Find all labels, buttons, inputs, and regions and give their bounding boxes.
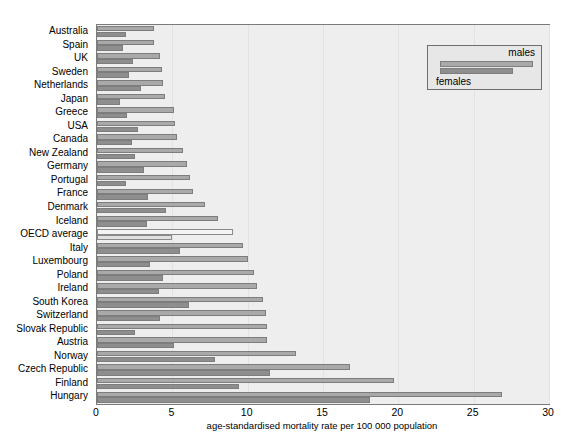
y-axis-label: USA: [67, 119, 88, 133]
bar-females: [97, 72, 129, 77]
y-axis-label: Netherlands: [34, 78, 88, 92]
bar-females: [97, 86, 141, 91]
bar-males: [97, 67, 162, 72]
y-axis-labels: AustraliaSpainUKSwedenNetherlandsJapanGr…: [0, 24, 92, 403]
y-axis-label: Iceland: [56, 214, 88, 228]
bar-males: [97, 134, 177, 139]
bar-males: [97, 283, 257, 288]
bar-row: [97, 133, 549, 147]
bar-females: [97, 167, 144, 172]
bar-row: [97, 282, 549, 296]
bar-males: [97, 364, 350, 369]
bar-females: [97, 208, 166, 213]
bar-row: [97, 160, 549, 174]
bar-row: [97, 120, 549, 134]
bar-males: [97, 310, 266, 315]
y-axis-label: Poland: [57, 268, 88, 282]
bar-females: [97, 154, 135, 159]
bar-males: [97, 202, 205, 207]
x-axis-tick-label: 25: [467, 405, 479, 419]
bar-females: [97, 357, 215, 362]
y-axis-label: OECD average: [20, 227, 88, 241]
bar-females: [97, 235, 172, 240]
bar-males: [97, 392, 502, 397]
bar-males: [97, 243, 243, 248]
bar-row: [97, 174, 549, 188]
y-axis-label: Finland: [55, 376, 88, 390]
bar-males: [97, 256, 248, 261]
x-axis-tick-label: 30: [542, 405, 554, 419]
bar-males: [97, 94, 165, 99]
bar-row: [97, 309, 549, 323]
bar-row: [97, 242, 549, 256]
bar-females: [97, 275, 163, 280]
bar-males: [97, 148, 183, 153]
bar-females: [97, 302, 189, 307]
bar-females: [97, 59, 133, 64]
y-axis-label: Germany: [47, 159, 88, 173]
bar-males: [97, 351, 296, 356]
y-axis-label: Italy: [70, 241, 88, 255]
y-axis-label: South Korea: [32, 295, 88, 309]
bar-females: [97, 289, 159, 294]
bar-males: [97, 337, 267, 342]
bar-males: [97, 229, 233, 234]
bar-row: [97, 201, 549, 215]
bar-row: [97, 377, 549, 391]
bar-males: [97, 121, 175, 126]
y-axis-label: Slovak Republic: [16, 322, 88, 336]
x-axis-tick-label: 15: [316, 405, 328, 419]
bar-females: [97, 330, 135, 335]
y-axis-label: New Zealand: [29, 146, 88, 160]
bar-row: [97, 363, 549, 377]
bar-males: [97, 53, 160, 58]
x-axis-tick-label: 20: [391, 405, 403, 419]
bar-row: [97, 147, 549, 161]
y-axis-label: Czech Republic: [18, 362, 88, 376]
bar-females: [97, 140, 132, 145]
x-axis-title: age-standardised mortality rate per 100 …: [96, 420, 548, 431]
y-axis-label: Canada: [53, 132, 88, 146]
bar-females: [97, 384, 239, 389]
x-axis-tick-label: 5: [168, 405, 174, 419]
bar-females: [97, 397, 370, 402]
bar-females: [97, 316, 160, 321]
y-axis-label: Switzerland: [36, 308, 88, 322]
y-axis-label: Austria: [57, 335, 88, 349]
bar-males: [97, 297, 263, 302]
bar-row: [97, 187, 549, 201]
x-axis-tick-label: 0: [93, 405, 99, 419]
y-axis-label: Spain: [62, 38, 88, 52]
bar-females: [97, 32, 126, 37]
bar-females: [97, 99, 120, 104]
bar-females: [97, 181, 126, 186]
y-axis-label: Ireland: [57, 281, 88, 295]
chart-legend: males females: [427, 45, 542, 90]
bar-males: [97, 175, 190, 180]
y-axis-label: Norway: [54, 349, 88, 363]
bar-row: [97, 269, 549, 283]
bar-row: [97, 25, 549, 39]
bar-row: [97, 228, 549, 242]
bar-males: [97, 26, 154, 31]
y-axis-label: UK: [74, 51, 88, 65]
y-axis-label: Denmark: [47, 200, 88, 214]
bar-males: [97, 40, 154, 45]
bar-row: [97, 106, 549, 120]
bar-males: [97, 161, 187, 166]
bar-females: [97, 248, 180, 253]
bar-females: [97, 221, 147, 226]
bar-row: [97, 350, 549, 364]
y-axis-label: Sweden: [52, 65, 88, 79]
x-axis-ticks: 051015202530: [0, 405, 574, 421]
y-axis-label: Luxembourg: [32, 254, 88, 268]
bar-row: [97, 296, 549, 310]
bar-females: [97, 370, 270, 375]
bar-row: [97, 323, 549, 337]
legend-swatch-males: [440, 61, 533, 67]
bar-females: [97, 194, 148, 199]
bar-males: [97, 80, 163, 85]
bar-males: [97, 270, 254, 275]
y-axis-label: Greece: [55, 105, 88, 119]
bar-row: [97, 255, 549, 269]
